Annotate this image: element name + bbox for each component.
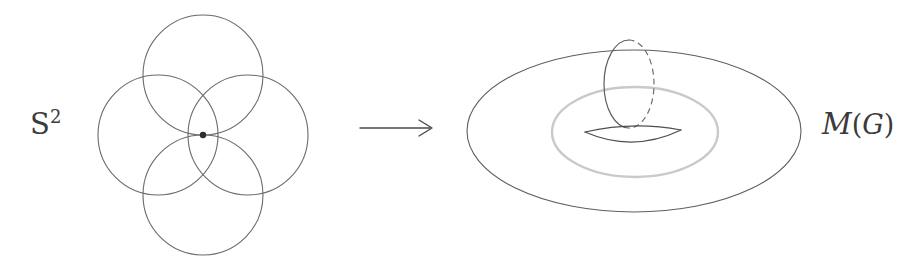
torus-inner-hole-ellipse <box>552 87 718 177</box>
torus-outer-ellipse <box>467 50 801 212</box>
label-target-group: G <box>862 109 884 140</box>
label-source-space: S2 <box>30 108 61 139</box>
wedge-basepoint-dot <box>200 132 206 138</box>
torus-meridian-solid-arc <box>604 40 629 128</box>
diagram-canvas <box>0 0 920 268</box>
torus-handle-lens-top-arc <box>585 126 681 132</box>
label-target-space: M(G) <box>822 110 894 139</box>
wedge-of-circles <box>98 15 308 255</box>
label-source-superscript: 2 <box>50 106 61 127</box>
torus-surface <box>467 40 801 212</box>
torus-handle-lens-bottom-arc <box>585 130 681 142</box>
figure-container: S2 M(G) <box>0 0 920 268</box>
torus-meridian-dashed-arc <box>629 40 654 128</box>
label-target-open-paren: ( <box>852 109 863 140</box>
label-target-symbol: M <box>822 107 852 141</box>
map-arrow <box>360 120 432 136</box>
label-target-close-paren: ) <box>884 109 895 140</box>
label-source-symbol: S <box>30 107 50 141</box>
